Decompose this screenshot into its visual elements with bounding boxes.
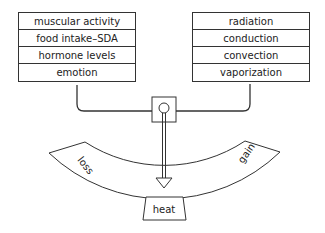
factor-radiation: radiation: [193, 13, 309, 30]
left-connector: [77, 85, 152, 111]
factor-conduction: conduction: [193, 30, 309, 47]
heat-loss-factors-box: radiation conduction convection vaporiza…: [192, 12, 310, 82]
factor-food-intake: food intake–SDA: [19, 30, 135, 47]
pivot-circle-icon: [159, 103, 169, 113]
factor-emotion: emotion: [19, 64, 135, 81]
factor-convection: convection: [193, 47, 309, 64]
heat-gain-factors-box: muscular activity food intake–SDA hormon…: [18, 12, 136, 82]
factor-vaporization: vaporization: [193, 64, 309, 81]
heat-label: heat: [153, 204, 176, 215]
right-connector: [176, 84, 250, 111]
factor-hormone-levels: hormone levels: [19, 47, 135, 64]
factor-muscular-activity: muscular activity: [19, 13, 135, 30]
